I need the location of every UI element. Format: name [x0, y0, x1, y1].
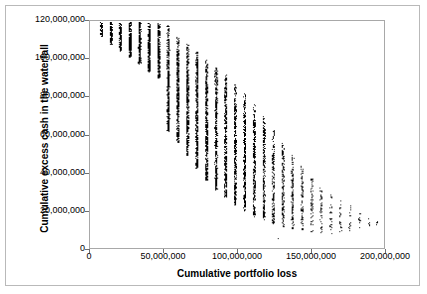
y-tick-mark	[85, 135, 89, 136]
x-tick-label: 50,000,000	[140, 252, 185, 261]
x-tick-mark	[311, 249, 312, 253]
y-axis-title-wrapper: Cumulative excess cash in the waterfall	[14, 0, 32, 266]
y-tick-mark	[85, 58, 89, 59]
x-axis-title: Cumulative portfolio loss	[89, 268, 385, 279]
x-tick-label: 150,000,000	[286, 252, 336, 261]
x-tick-mark	[89, 249, 90, 253]
x-tick-label: 0	[86, 252, 91, 261]
scatter-points-canvas	[90, 21, 384, 248]
y-tick-mark	[85, 211, 89, 212]
x-tick-mark	[163, 249, 164, 253]
y-tick-mark	[85, 96, 89, 97]
x-tick-mark	[237, 249, 238, 253]
x-tick-label: 200,000,000	[360, 252, 410, 261]
x-tick-label: 100,000,000	[212, 252, 262, 261]
x-tick-mark	[385, 249, 386, 253]
scatter-chart: 020,000,00040,000,00060,000,00080,000,00…	[0, 0, 427, 294]
y-tick-mark	[85, 20, 89, 21]
plot-area	[89, 20, 385, 249]
y-tick-mark	[85, 173, 89, 174]
y-axis-title: Cumulative excess cash in the waterfall	[39, 24, 50, 254]
